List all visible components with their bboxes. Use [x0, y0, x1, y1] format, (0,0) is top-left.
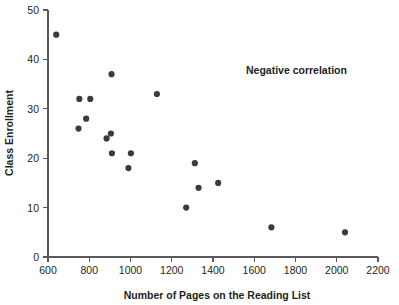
data-point	[183, 205, 189, 211]
data-point	[75, 125, 81, 131]
scatter-plot-canvas: 6008001000120014001600180020002200010203…	[0, 0, 399, 305]
x-axis-tick-label: 1000	[119, 264, 143, 276]
x-axis-title: Number of Pages on the Reading List	[124, 289, 311, 301]
x-axis-tick-label: 2000	[325, 264, 349, 276]
annotations-group: Negative correlation	[246, 64, 347, 76]
x-axis-tick-label: 1800	[284, 264, 308, 276]
data-point	[76, 96, 82, 102]
data-point	[192, 160, 198, 166]
data-point	[128, 150, 134, 156]
y-axis-tick-label: 0	[33, 251, 39, 263]
data-point	[108, 130, 114, 136]
data-point	[83, 116, 89, 122]
tick-labels-group: 6008001000120014001600180020002200010203…	[27, 4, 390, 276]
data-point	[109, 150, 115, 156]
x-axis-tick-label: 1400	[201, 264, 225, 276]
x-axis-tick-label: 2200	[366, 264, 390, 276]
x-axis-tick-label: 600	[39, 264, 57, 276]
y-axis-title: Class Enrollment	[3, 90, 15, 176]
y-axis-tick-label: 10	[27, 202, 39, 214]
ticks-group	[43, 10, 378, 262]
x-axis-tick-label: 1200	[160, 264, 184, 276]
correlation-annotation: Negative correlation	[246, 64, 347, 76]
axes-group	[48, 10, 378, 257]
data-point	[125, 165, 131, 171]
y-axis-tick-label: 30	[27, 103, 39, 115]
y-axis-tick-label: 40	[27, 53, 39, 65]
data-point	[268, 224, 274, 230]
data-point	[53, 32, 59, 38]
data-points-group	[53, 32, 348, 236]
data-point	[103, 135, 109, 141]
data-point	[108, 71, 114, 77]
x-axis-tick-label: 1600	[243, 264, 267, 276]
data-point	[195, 185, 201, 191]
y-axis-tick-label: 50	[27, 4, 39, 16]
y-axis-tick-label: 20	[27, 152, 39, 164]
data-point	[87, 96, 93, 102]
data-point	[215, 180, 221, 186]
x-axis-tick-label: 800	[80, 264, 98, 276]
data-point	[154, 91, 160, 97]
scatter-plot-figure: 6008001000120014001600180020002200010203…	[0, 0, 399, 305]
data-point	[342, 229, 348, 235]
